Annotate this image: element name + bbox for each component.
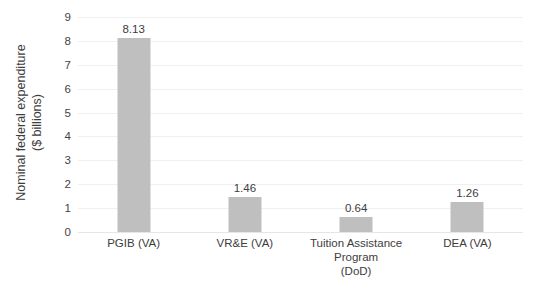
bars-layer: 8.131.460.641.26: [78, 17, 523, 232]
bar-value-label: 1.26: [456, 187, 478, 199]
y-tick-label-6: 6: [48, 83, 78, 95]
bar-chart: Nominal federal expenditure ($ billions)…: [0, 0, 537, 283]
bar[interactable]: [451, 202, 484, 232]
y-axis-tick-labels: 9876543210: [48, 0, 78, 283]
bar[interactable]: [340, 217, 373, 232]
bar-value-label: 0.64: [345, 202, 367, 214]
y-tick-label-0: 0: [48, 226, 78, 238]
x-axis-label-line: DEA (VA): [412, 236, 523, 250]
x-axis-label-line: (DoD): [301, 264, 412, 278]
y-axis-title-line1: Nominal federal expenditure: [14, 44, 28, 200]
bar-slot: 1.26: [412, 17, 523, 232]
x-axis-label: VR&E (VA): [189, 236, 300, 250]
y-tick-label-9: 9: [48, 11, 78, 23]
y-tick-label-4: 4: [48, 130, 78, 142]
x-axis-label: Tuition Assistance Program(DoD): [301, 236, 412, 278]
x-axis-label: PGIB (VA): [78, 236, 189, 250]
x-axis-label-line: PGIB (VA): [78, 236, 189, 250]
y-tick-label-3: 3: [48, 154, 78, 166]
y-tick-label-7: 7: [48, 59, 78, 71]
gridline-0: [78, 232, 523, 233]
bar-value-label: 1.46: [234, 182, 256, 194]
x-axis-label-line: Tuition Assistance Program: [301, 236, 412, 264]
x-axis-label: DEA (VA): [412, 236, 523, 250]
y-tick-label-1: 1: [48, 202, 78, 214]
x-axis-category-labels: PGIB (VA)VR&E (VA)Tuition Assistance Pro…: [78, 236, 523, 280]
bar-value-label: 8.13: [122, 23, 144, 35]
bar-slot: 0.64: [301, 17, 412, 232]
y-tick-label-5: 5: [48, 107, 78, 119]
y-axis-title-line2: ($ billions): [29, 44, 45, 200]
bar-slot: 8.13: [78, 17, 189, 232]
y-tick-label-8: 8: [48, 35, 78, 47]
bar[interactable]: [228, 197, 261, 232]
bar-slot: 1.46: [189, 17, 300, 232]
x-axis-label-line: VR&E (VA): [189, 236, 300, 250]
y-tick-label-2: 2: [48, 178, 78, 190]
bar[interactable]: [117, 38, 150, 232]
